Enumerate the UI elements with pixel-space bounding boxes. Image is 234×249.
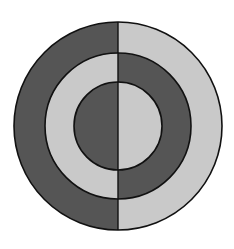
concentric-split-circle-diagram [0,0,234,249]
